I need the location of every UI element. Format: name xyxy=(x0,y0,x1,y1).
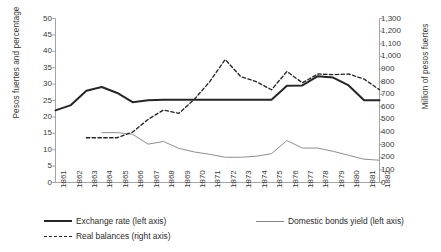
x-tick-label: 1877 xyxy=(306,170,315,188)
x-tick-label: 1861 xyxy=(59,170,68,188)
x-tick-label: 1866 xyxy=(136,170,145,188)
y-tick-label-right: 300 xyxy=(381,141,413,149)
y-tick-label-right: 1,000 xyxy=(381,52,413,60)
x-tick-label: 1879 xyxy=(337,170,346,188)
y-tick-label-right: 200 xyxy=(381,153,413,161)
y-tick-label-right: 700 xyxy=(381,90,413,98)
y-tick-label-right: 500 xyxy=(381,115,413,123)
x-tick-label: 1869 xyxy=(183,170,192,188)
y-tick-label-left: 45 xyxy=(30,31,52,39)
x-tick-label: 1881 xyxy=(368,170,377,188)
y-tick-label-left: 5 xyxy=(30,162,52,170)
legend-item[interactable]: Exchange rate (left axis) xyxy=(44,216,166,226)
series-line-2 xyxy=(86,60,379,138)
y-tick-label-left: 15 xyxy=(30,129,52,137)
x-tick-label: 1875 xyxy=(275,170,284,188)
x-tick-label: 1871 xyxy=(213,170,222,188)
legend-item-label: Domestic bonds yield (left axis) xyxy=(288,216,404,226)
x-tick-label: 1878 xyxy=(321,170,330,188)
y-tick-label-left: 35 xyxy=(30,64,52,72)
y-tick-label-left: 10 xyxy=(30,146,52,154)
x-tick-label: 1876 xyxy=(291,170,300,188)
x-tick-label: 1872 xyxy=(229,170,238,188)
chart-legend: Exchange rate (left axis)Domestic bonds … xyxy=(44,214,436,248)
legend-item[interactable]: Real balances (right axis) xyxy=(44,231,171,241)
x-tick-label: 1870 xyxy=(198,170,207,188)
series-line-1 xyxy=(102,133,380,161)
x-tick-label: 1862 xyxy=(75,170,84,188)
legend-item-label: Exchange rate (left axis) xyxy=(76,216,166,226)
series-line-0 xyxy=(56,76,380,110)
legend-item[interactable]: Domestic bonds yield (left axis) xyxy=(256,216,404,226)
y-tick-label-right: 1,200 xyxy=(381,27,413,35)
y-axis-label-left: Pesos fuertes and percentage xyxy=(12,0,21,133)
chart-figure: Pesos fuertes and percentage Million of … xyxy=(0,0,441,252)
y-tick-label-right: 1,300 xyxy=(381,15,413,23)
y-tick-label-right: 800 xyxy=(381,78,413,86)
y-tick-label-right: 1,100 xyxy=(381,40,413,48)
y-tick-label-right: 600 xyxy=(381,103,413,111)
legend-swatch-icon xyxy=(256,221,284,222)
y-tick-label-left: 0 xyxy=(30,179,52,187)
x-tick-label: 1874 xyxy=(260,170,269,188)
x-tick-label: 1865 xyxy=(121,170,130,188)
x-tick-label: 1868 xyxy=(167,170,176,188)
y-tick-label-left: 40 xyxy=(30,47,52,55)
x-tick-label: 1864 xyxy=(105,170,114,188)
x-tick-label: 1880 xyxy=(352,170,361,188)
legend-item-label: Real balances (right axis) xyxy=(76,231,171,241)
y-tick-label-left: 30 xyxy=(30,80,52,88)
x-tick-label: 1882 xyxy=(383,170,392,188)
x-tick-label: 1863 xyxy=(90,170,99,188)
y-tick-label-left: 50 xyxy=(30,15,52,23)
x-tick-label: 1873 xyxy=(244,170,253,188)
y-tick-label-left: 25 xyxy=(30,97,52,105)
y-axis-label-right: Million of pesos fuertes xyxy=(421,0,430,137)
y-tick-label-left: 20 xyxy=(30,113,52,121)
x-tick-label: 1867 xyxy=(152,170,161,188)
y-tick-label-right: 900 xyxy=(381,65,413,73)
legend-swatch-icon xyxy=(44,220,72,222)
y-tick-label-right: 400 xyxy=(381,128,413,136)
